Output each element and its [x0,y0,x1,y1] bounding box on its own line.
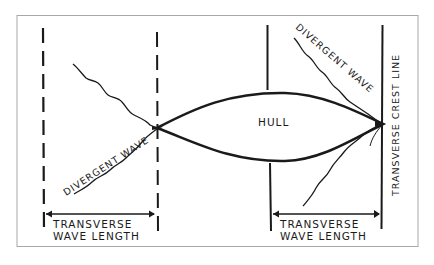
diagram-border [17,16,418,247]
dashed-crest-line-left [43,28,44,232]
solid-crest-line-lower [270,163,271,231]
diagram-canvas: HULL DIVERGENT WAVE DIVERGENT WAVE TRANS… [0,0,434,265]
divergent-wave-left-label: DIVERGENT WAVE [61,134,151,198]
divergent-wave-right-label: DIVERGENT WAVE [294,21,377,95]
divergent-wave-right-lower [303,125,382,206]
transverse-crest-line [382,25,383,229]
dashed-crest-line-middle [157,32,158,232]
wavelength-right-label-line1: TRANSVERSE [279,218,359,230]
wavelength-right-label-line2: WAVE LENGTH [280,230,367,242]
wavelength-left-label-line2: WAVE LENGTH [53,230,140,242]
hull-label: HULL [258,116,289,128]
wavelength-arrow-left [46,211,155,218]
transverse-crest-line-label: TRANSVERSE CREST LINE [390,54,401,197]
divergent-wave-left-upper [73,64,157,128]
wavelength-left-label-line1: TRANSVERSE [52,218,132,230]
wavelength-arrow-right [273,210,380,218]
